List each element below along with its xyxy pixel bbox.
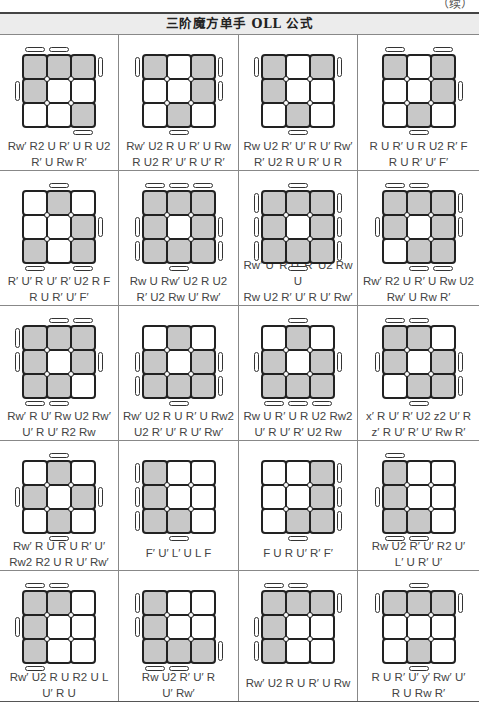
side-sticker-left — [15, 328, 20, 348]
corner-dot — [164, 100, 170, 106]
side-sticker-right — [98, 487, 103, 507]
cube-top-face — [23, 191, 95, 263]
cube-diagram — [131, 181, 227, 275]
sticker — [406, 484, 432, 510]
corner-dot — [44, 612, 50, 618]
side-sticker-top — [409, 583, 429, 588]
side-sticker-right — [98, 57, 103, 77]
side-sticker-left — [254, 352, 259, 372]
algorithm-text: Rw′ R U′ Rw U2 Rw′U′ R U′ R2 Rw — [5, 408, 113, 440]
corner-dot — [404, 612, 410, 618]
corner-dot — [44, 236, 50, 242]
corner-dot — [428, 612, 434, 618]
algorithm-text: R′ U′ R U′ R′ U2 R FR U R′ U′ F′ — [6, 273, 113, 305]
cube-diagram — [11, 581, 107, 671]
sticker — [309, 325, 335, 351]
corner-dot — [283, 212, 289, 218]
corner-dot — [404, 636, 410, 642]
algorithm-text: R U R′ U′ y′ Rw′ U′R U Rw R′ — [370, 669, 468, 701]
side-sticker-top — [49, 453, 69, 458]
cube-top-face — [262, 591, 334, 663]
algorithm-line-2: R U Rw R′ — [372, 685, 466, 701]
algorithm-line-2: R U R′ U′ F′ — [8, 289, 111, 305]
corner-dot — [428, 636, 434, 642]
algorithm-line-2: U2 R′ U′ R U′ Rw′ — [123, 424, 234, 440]
corner-dot — [164, 506, 170, 512]
corner-dot — [404, 236, 410, 242]
cube-top-face — [262, 55, 334, 127]
algorithm-line-2: U′ Rw′ — [142, 685, 215, 701]
sticker — [430, 190, 456, 216]
sticker — [406, 190, 432, 216]
cube-diagram — [371, 45, 467, 140]
sticker — [190, 484, 216, 510]
side-sticker-bottom — [145, 666, 165, 671]
sticker — [70, 508, 96, 534]
cube-top-face — [262, 326, 334, 398]
oll-case-cell: x′ R U′ R′ U2 z2 U′ Rz′ R U′ R′ U′ Rw R′ — [358, 306, 479, 441]
sticker — [406, 373, 432, 399]
side-sticker-bottom — [409, 666, 429, 671]
corner-dot — [164, 236, 170, 242]
side-sticker-left — [254, 57, 259, 77]
side-sticker-left — [135, 593, 140, 613]
side-sticker-top — [385, 318, 405, 323]
sticker — [309, 484, 335, 510]
sticker — [22, 102, 48, 128]
sticker — [70, 484, 96, 510]
sticker — [382, 590, 408, 616]
side-sticker-right — [218, 81, 223, 101]
sticker — [22, 638, 48, 664]
side-sticker-top — [288, 583, 308, 588]
algorithm-line-2: Rw U2 R′ U′ R U′ Rw′ — [241, 289, 355, 305]
side-sticker-top — [169, 183, 189, 188]
sticker — [382, 78, 408, 104]
sticker — [309, 373, 335, 399]
algorithm-line-1: Rw′ U2 R U R2 U L — [10, 669, 109, 685]
algorithm-line-1: Rw U2 R′ U′ R U′ Rw′ — [244, 138, 353, 154]
algorithm-line-1: R U R′ U R U2 R′ F — [369, 138, 467, 154]
sticker — [190, 190, 216, 216]
cube-top-face — [23, 461, 95, 533]
algorithm-text: Rw′ R2 U R′ U Rw U2Rw′ U Rw R′ — [361, 273, 476, 305]
side-sticker-bottom — [288, 266, 308, 271]
corner-dot — [188, 236, 194, 242]
cube-top-face — [383, 461, 455, 533]
side-sticker-right — [337, 463, 342, 483]
corner-dot — [283, 612, 289, 618]
corner-dot — [283, 76, 289, 82]
sticker — [406, 638, 432, 664]
corner-dot — [307, 212, 313, 218]
oll-case-cell: Rw′ R2 U R′ U Rw U2Rw′ U Rw R′ — [358, 171, 479, 306]
algorithm-line-2: U′ R U′ R′ U2 Rw — [244, 424, 353, 440]
sticker — [309, 349, 335, 375]
sticker — [190, 590, 216, 616]
side-sticker-left — [15, 617, 20, 637]
sticker — [382, 460, 408, 486]
corner-dot — [68, 482, 74, 488]
sticker — [309, 614, 335, 640]
side-sticker-left — [15, 487, 20, 507]
side-sticker-top — [409, 318, 429, 323]
sticker — [70, 238, 96, 264]
sticker — [382, 373, 408, 399]
cube-diagram — [11, 45, 107, 140]
side-sticker-left — [135, 487, 140, 507]
corner-dot — [307, 482, 313, 488]
corner-dot — [307, 76, 313, 82]
algorithm-line-1: R′ U′ R U′ R′ U2 R F — [8, 273, 111, 289]
sticker — [190, 349, 216, 375]
side-sticker-left — [254, 217, 259, 237]
sticker — [166, 590, 192, 616]
sticker — [406, 460, 432, 486]
sticker — [166, 484, 192, 510]
side-sticker-right — [458, 593, 463, 613]
table-title: 三阶魔方单手 OLL 公式 — [0, 14, 479, 35]
sticker — [142, 54, 168, 80]
sticker — [309, 102, 335, 128]
sticker — [70, 214, 96, 240]
corner-dot — [188, 76, 194, 82]
oll-case-cell: F U R U′ R′ F′ — [239, 441, 358, 571]
algorithm-line-1: Rw U R′ U R U2 Rw2 — [244, 408, 353, 424]
cube-top-face — [143, 326, 215, 398]
